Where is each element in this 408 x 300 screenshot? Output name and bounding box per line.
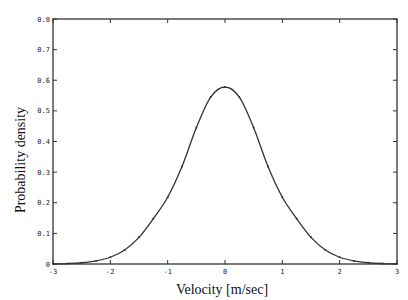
x-tick-label: 1 xyxy=(280,268,284,276)
data-point-marker xyxy=(238,96,240,98)
data-point-marker xyxy=(353,260,355,262)
data-point-marker xyxy=(296,218,298,220)
data-point-marker xyxy=(281,196,283,198)
data-point-marker xyxy=(210,96,212,98)
x-tick-label: -1 xyxy=(163,268,171,276)
y-tick-label: 0.6 xyxy=(37,77,50,85)
data-point-marker xyxy=(310,236,312,238)
data-point-marker xyxy=(124,249,126,251)
data-point-marker xyxy=(396,263,398,265)
y-tick-label: 0.7 xyxy=(37,46,50,54)
plot-frame xyxy=(53,19,397,264)
chart: 00.10.20.30.40.50.60.70.8 -3-2-10123 Vel… xyxy=(0,0,408,300)
y-tick-label: 0.2 xyxy=(37,199,50,207)
data-point-marker xyxy=(267,166,269,168)
data-point-marker xyxy=(167,196,169,198)
x-tick-label: -2 xyxy=(106,268,114,276)
data-point-marker xyxy=(152,218,154,220)
data-point-marker xyxy=(367,262,369,264)
data-point-marker xyxy=(66,263,68,265)
data-point-marker xyxy=(181,166,183,168)
data-point-marker xyxy=(109,256,111,258)
y-tick-label: 0.3 xyxy=(37,169,50,177)
y-tick-label: 0.8 xyxy=(37,16,50,24)
x-axis-ticks: -3-2-10123 xyxy=(49,19,399,276)
data-point-marker xyxy=(95,260,97,262)
data-point-marker xyxy=(138,236,140,238)
y-tick-label: 0.1 xyxy=(37,230,50,238)
data-point-marker xyxy=(81,262,83,264)
data-point-marker xyxy=(195,127,197,129)
data-point-marker xyxy=(224,86,226,88)
y-axis-ticks: 00.10.20.30.40.50.60.70.8 xyxy=(37,16,397,269)
density-curve xyxy=(53,87,397,264)
y-tick-label: 0.5 xyxy=(37,107,50,115)
data-point-marker xyxy=(382,263,384,265)
data-markers xyxy=(52,86,398,265)
x-tick-label: -3 xyxy=(49,268,57,276)
x-tick-label: 3 xyxy=(395,268,399,276)
y-tick-label: 0.4 xyxy=(37,138,50,146)
x-tick-label: 2 xyxy=(338,268,342,276)
data-point-marker xyxy=(52,263,54,265)
data-point-marker xyxy=(324,249,326,251)
x-axis-label: Velocity [m/sec] xyxy=(176,282,268,297)
y-axis-label: Probability density xyxy=(13,107,28,213)
x-tick-label: 0 xyxy=(223,268,227,276)
data-point-marker xyxy=(339,256,341,258)
data-point-marker xyxy=(253,127,255,129)
